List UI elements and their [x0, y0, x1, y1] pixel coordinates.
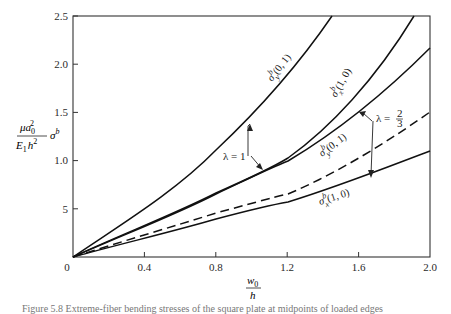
arrow-head-icon: [256, 163, 263, 170]
svg-text:σxb(1, 0): σxb(1, 0): [316, 184, 352, 211]
figure-caption: Figure 5.8 Extreme-fiber bending stresse…: [22, 303, 451, 314]
y-axis-tick-labels: 2.5 2.0 1.5 1.0 5: [54, 10, 68, 215]
svg-text:λ =: λ =: [376, 112, 390, 124]
annotation-lambda-1: λ = 1: [223, 124, 263, 170]
y-tick-1.0: 1.0: [54, 154, 68, 166]
y-tick-1.5: 1.5: [54, 106, 68, 118]
annotation-lambda-two-thirds: λ = 2 3: [359, 107, 403, 178]
chart: 2.5 2.0 1.5 1.0 5 0 0.4 0.8 1.2 1.6 2.0 …: [0, 0, 451, 314]
curve-sigma-y-lambda-1: [73, 16, 332, 257]
svg-text:λ = 1: λ = 1: [223, 150, 246, 162]
x-tick-1.2: 1.2: [280, 261, 294, 273]
x-axis-label: w0 h: [246, 274, 261, 301]
y-tick-2.0: 2.0: [54, 58, 68, 70]
x-tick-0: 0: [64, 261, 70, 273]
y-tick-2.5: 2.5: [54, 10, 68, 22]
svg-text:σyb(0, 1): σyb(0, 1): [263, 49, 297, 85]
x-tick-0.8: 0.8: [209, 261, 223, 273]
x-axis-tick-labels: 0 0.4 0.8 1.2 1.6 2.0: [64, 261, 437, 273]
x-tick-2.0: 2.0: [423, 261, 437, 273]
svg-text:μa02: μa02: [19, 119, 35, 136]
y-axis-ticks: [73, 16, 78, 209]
arrow-head-icon: [359, 111, 366, 117]
curves: [73, 16, 430, 257]
svg-text:E1h2: E1h2: [15, 137, 37, 154]
svg-text:σyb(0, 1): σyb(0, 1): [315, 128, 351, 162]
svg-text:w0: w0: [247, 274, 258, 289]
x-tick-1.6: 1.6: [352, 261, 366, 273]
svg-text:h: h: [250, 289, 256, 301]
x-tick-0.4: 0.4: [138, 261, 152, 273]
y-axis-label: μa02 E1h2 σb: [15, 119, 59, 154]
curve-sigma-y-lambda-two-thirds: [73, 48, 430, 257]
svg-text:σxb(1, 0): σxb(1, 0): [326, 64, 358, 101]
curve-label-sigma-y-0-1-lambda-two-thirds: σyb(0, 1): [315, 128, 351, 162]
x-axis-ticks: [144, 252, 358, 257]
curve-label-sigma-y-0-1-lambda-1: σyb(0, 1): [263, 49, 297, 85]
curve-label-sigma-x-1-0-lambda-1: σxb(1, 0): [326, 64, 358, 101]
y-tick-0.5: 5: [63, 203, 69, 215]
curve-label-sigma-x-1-0-lambda-two-thirds: σxb(1, 0): [316, 184, 352, 211]
curve-sigma-x-lambda-1: [73, 16, 414, 257]
curve-dashed: [73, 112, 430, 257]
svg-text:σb: σb: [50, 127, 59, 141]
svg-text:3: 3: [397, 117, 403, 129]
